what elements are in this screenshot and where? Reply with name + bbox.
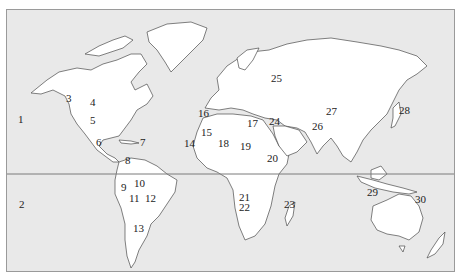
region-label-10: 10	[134, 178, 145, 189]
map-canvas	[7, 10, 455, 272]
region-label-14: 14	[184, 138, 195, 149]
region-label-4: 4	[90, 97, 96, 108]
tasmania	[399, 246, 405, 252]
region-label-30: 30	[415, 194, 426, 205]
region-label-6: 6	[96, 137, 102, 148]
region-label-1: 1	[18, 114, 24, 125]
borneo	[371, 166, 387, 180]
region-label-20: 20	[267, 153, 278, 164]
region-label-11: 11	[129, 193, 140, 204]
region-label-27: 27	[326, 106, 337, 117]
arctic-islands	[85, 36, 133, 56]
caribbean-islands	[119, 140, 139, 144]
greenland	[147, 22, 207, 72]
region-label-25: 25	[271, 73, 282, 84]
region-label-15: 15	[201, 127, 212, 138]
region-label-16: 16	[198, 108, 209, 119]
region-label-12: 12	[145, 193, 156, 204]
world-map: 1234567891011121314151617181920212223242…	[6, 9, 455, 272]
region-label-13: 13	[133, 223, 144, 234]
indonesia	[357, 176, 417, 194]
region-label-29: 29	[367, 187, 378, 198]
region-label-23: 23	[284, 199, 295, 210]
north-america	[31, 54, 153, 162]
region-label-17: 17	[247, 118, 258, 129]
region-label-9: 9	[121, 182, 127, 193]
region-label-24: 24	[269, 116, 280, 127]
region-label-28: 28	[399, 105, 410, 116]
region-label-22: 22	[239, 202, 250, 213]
region-label-7: 7	[140, 137, 146, 148]
region-label-5: 5	[90, 115, 96, 126]
region-label-3: 3	[66, 93, 72, 104]
region-label-26: 26	[312, 121, 323, 132]
region-label-18: 18	[218, 138, 229, 149]
region-label-8: 8	[125, 155, 131, 166]
region-label-2: 2	[19, 199, 25, 210]
new-zealand	[427, 232, 445, 258]
region-label-19: 19	[240, 141, 251, 152]
